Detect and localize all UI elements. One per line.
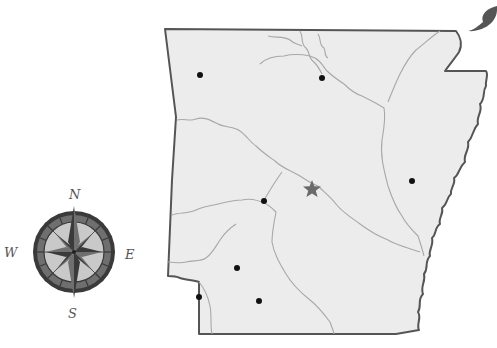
corner-decoration-icon <box>468 6 497 31</box>
arkansas-map: N W E S <box>0 0 497 348</box>
compass-south-label: S <box>68 306 77 321</box>
compass-rose <box>33 206 115 298</box>
city-dot[interactable] <box>196 294 202 300</box>
city-dot[interactable] <box>261 198 267 204</box>
city-dot[interactable] <box>409 178 415 184</box>
city-dot[interactable] <box>234 265 240 271</box>
state-outline <box>165 29 487 334</box>
compass-west-label: W <box>4 245 19 260</box>
compass-east-label: E <box>124 247 135 262</box>
city-dot[interactable] <box>319 75 325 81</box>
city-dot[interactable] <box>256 298 262 304</box>
compass-north-label: N <box>68 187 81 202</box>
city-dot[interactable] <box>197 72 203 78</box>
